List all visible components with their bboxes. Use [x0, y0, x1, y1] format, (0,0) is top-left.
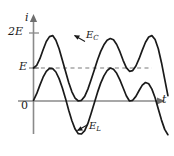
origin-label: 0 — [21, 100, 28, 111]
y-tick-label-2E: 2E — [8, 26, 23, 37]
curve-label-EC: EC — [86, 30, 99, 42]
y-axis-arrowhead — [30, 14, 37, 22]
leader-EC — [74, 35, 85, 41]
curve-label-EC-sub: C — [93, 34, 98, 42]
y-tick-label-E: E — [19, 61, 27, 72]
x-axis-label: t — [162, 94, 166, 105]
y-axis-label: i — [25, 12, 29, 23]
y-axis — [30, 14, 37, 134]
x-axis — [18, 97, 165, 104]
curve-label-EL-sub: L — [96, 125, 101, 133]
figure-container: i t 2E E 0 EC EL — [0, 0, 174, 156]
curve-label-EL: EL — [89, 121, 101, 133]
